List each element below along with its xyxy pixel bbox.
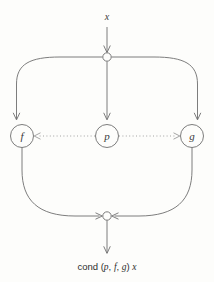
input-fanout-junction bbox=[103, 53, 111, 61]
edge-top-junction-to-p bbox=[104, 61, 111, 120]
output-merge-junction bbox=[103, 212, 111, 220]
edge-input-to-top-junction bbox=[104, 27, 111, 53]
predicate-node-p-label: p bbox=[103, 130, 110, 142]
output-arg-x: x bbox=[131, 262, 137, 272]
edge-g-to-bottom-junction bbox=[112, 148, 192, 220]
edge-predicate-control-to-g bbox=[119, 133, 180, 139]
edge-bottom-junction-to-output bbox=[104, 220, 111, 253]
function-node-g-label: g bbox=[189, 130, 195, 142]
function-node-g[interactable]: g bbox=[181, 125, 204, 148]
edge-top-junction-to-g bbox=[111, 57, 200, 120]
function-node-f[interactable]: f bbox=[11, 125, 34, 148]
output-expression-label: cond (p, f, g) x bbox=[77, 261, 137, 272]
diagram-canvas: f p g x c bbox=[0, 0, 214, 282]
edge-predicate-control-to-f bbox=[34, 133, 95, 139]
edge-f-to-bottom-junction bbox=[22, 148, 102, 220]
output-cond-keyword: cond bbox=[77, 261, 98, 272]
input-label-x: x bbox=[104, 11, 110, 22]
edge-top-junction-to-f bbox=[13, 57, 102, 120]
predicate-node-p[interactable]: p bbox=[96, 125, 119, 148]
dataflow-diagram: f p g x c bbox=[0, 0, 214, 282]
